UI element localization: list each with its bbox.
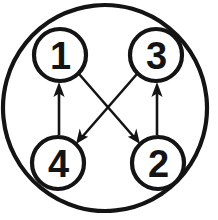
arrow-2-to-3 (151, 82, 162, 135)
node-label: 2 (148, 143, 168, 185)
node-2[interactable]: 2 (132, 137, 184, 189)
node-4[interactable]: 4 (32, 137, 84, 189)
arrow-shaft (79, 74, 134, 137)
node-label: 1 (50, 35, 71, 77)
outer-boundary-circle (0, 0, 217, 220)
four-node-arrow-diagram: 1 3 4 2 (0, 0, 218, 220)
node-label: 3 (146, 35, 166, 77)
arrow-shaft (83, 74, 138, 137)
arrow-4-to-1 (53, 82, 64, 135)
diagram-canvas: 1 3 4 2 (0, 0, 218, 220)
arrow-3-to-4 (76, 74, 137, 144)
node-label: 4 (48, 143, 69, 185)
node-1[interactable]: 1 (34, 29, 86, 81)
arrow-1-to-2 (79, 74, 140, 144)
node-3[interactable]: 3 (130, 29, 182, 81)
